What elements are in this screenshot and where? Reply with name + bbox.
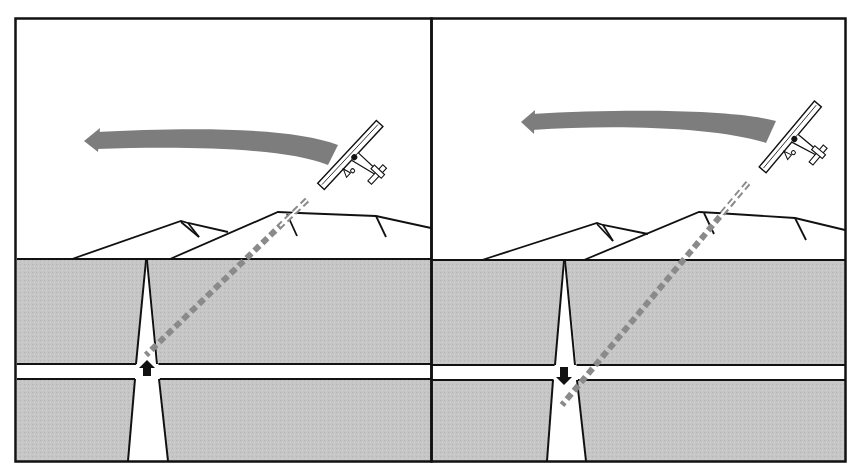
- ground-fields: [432, 260, 845, 461]
- crossing-road: [17, 364, 431, 379]
- panel-right: [432, 19, 847, 461]
- panel-left: [16, 19, 431, 461]
- diagram-figure: Two-panel aviation illustration: airplan…: [0, 0, 848, 472]
- ground-fields: [17, 260, 431, 461]
- crossing-road: [432, 365, 845, 380]
